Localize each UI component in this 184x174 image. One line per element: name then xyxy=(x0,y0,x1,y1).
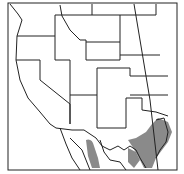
map-svg xyxy=(0,0,184,174)
range-map xyxy=(0,0,184,174)
